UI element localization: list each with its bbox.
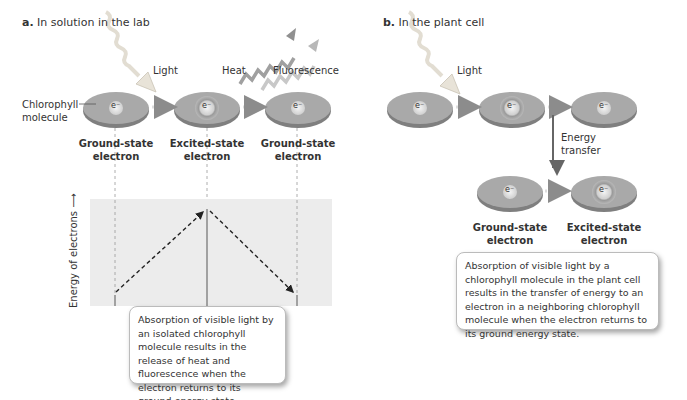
state-label-b4: Ground-state electron [470, 221, 550, 247]
electron-a2: e⁻ [202, 101, 211, 110]
state-label-a1: Ground-state electron [76, 137, 156, 163]
electron-a3: e⁻ [293, 101, 302, 110]
electron-b3: e⁻ [599, 101, 608, 110]
state-label-a2: Excited-state electron [167, 137, 247, 163]
caption-a: Absorption of visible light by an isolat… [129, 306, 286, 384]
light-label-a: Light [153, 65, 178, 76]
molecule-a2 [174, 92, 240, 128]
electron-b4: e⁻ [505, 185, 514, 194]
electron-a1: e⁻ [111, 101, 120, 110]
state-label-a3: Ground-state electron [258, 137, 338, 163]
panel-b-title: b. In the plant cell [383, 16, 484, 29]
panel-a-title-text: In solution in the lab [37, 16, 150, 29]
molecule-b5 [571, 176, 637, 212]
state-label-b5: Excited-state electron [564, 221, 644, 247]
electron-b5: e⁻ [599, 185, 608, 194]
diagram-graphics [0, 0, 687, 400]
light-label-b: Light [457, 65, 482, 76]
chlorophyll-label: Chlorophyll molecule [22, 98, 78, 124]
energy-band [90, 199, 332, 306]
caption-b: Absorption of visible light by a chlorop… [456, 252, 659, 330]
panel-a-title: a. In solution in the lab [22, 16, 150, 29]
panel-b-letter: b. [383, 16, 395, 29]
molecule-b4 [477, 176, 543, 212]
molecule-b3 [571, 92, 637, 128]
electron-b1: e⁻ [415, 101, 424, 110]
heat-label: Heat [222, 65, 246, 76]
energy-axis-label: Energy of electrons ⟶ [68, 193, 79, 308]
molecule-b1 [387, 92, 453, 128]
fluorescence-label: Fluorescence [273, 65, 339, 76]
molecule-b2 [479, 92, 545, 128]
molecule-a1 [83, 92, 149, 128]
electron-b2: e⁻ [507, 101, 516, 110]
molecule-a3 [265, 92, 331, 128]
panel-a-letter: a. [22, 16, 34, 29]
energy-transfer-label: Energy transfer [561, 131, 601, 157]
panel-b-title-text: In the plant cell [399, 16, 485, 29]
